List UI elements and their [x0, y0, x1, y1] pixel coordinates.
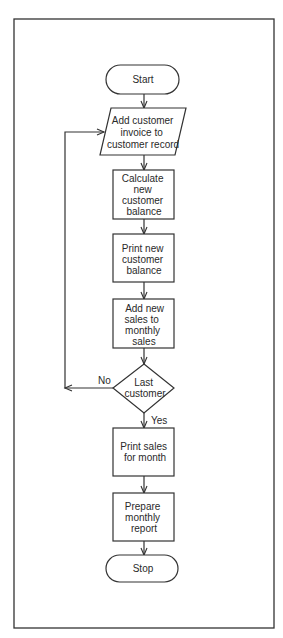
node-print-sales: Print sales for month — [113, 428, 174, 476]
node-start-label: Start — [132, 74, 153, 85]
node-last-customer: Last customer — [113, 364, 174, 413]
node-calc-balance: Calculate new customer balance — [113, 170, 174, 219]
edge-label-yes: Yes — [151, 415, 167, 426]
svg-text:Start: Start — [132, 74, 153, 85]
flowchart-canvas: Start Add customer invoice to customer r… — [0, 0, 283, 638]
svg-text:Print new customer: Print new customer balance — [122, 243, 166, 276]
svg-text:Print sales for month: Print sales for month — [120, 441, 169, 463]
node-stop: Stop — [106, 555, 178, 582]
svg-text:Calculate new cust: Calculate new customer balance — [122, 173, 166, 217]
node-print-balance: Print new customer balance — [113, 234, 174, 282]
edge-no-loop: No — [65, 129, 113, 391]
node-prepare-report: Prepare monthly report — [113, 493, 174, 541]
edge-yes: Yes — [141, 413, 167, 428]
node-stop-label: Stop — [133, 563, 154, 574]
node-add-sales: Add new sales to monthly sales — [113, 299, 174, 348]
node-add-invoice: Add customer invoice to customer record — [100, 108, 186, 155]
edge-label-no: No — [98, 375, 111, 386]
svg-text:Stop: Stop — [133, 563, 154, 574]
node-start: Start — [106, 65, 179, 94]
